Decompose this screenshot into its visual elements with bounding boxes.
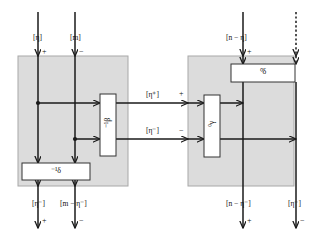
sign-plus-top-left: + xyxy=(42,48,47,56)
wire-label-eta-minus-bottom-right: [η⁻] xyxy=(288,200,301,208)
sign-minus-middle: − xyxy=(179,127,184,135)
junction-m-lower xyxy=(73,137,77,141)
wire-label-eta-top-left: [η] xyxy=(33,34,42,42)
sign-plus-middle: + xyxy=(179,90,184,98)
sign-plus-bottom-right: + xyxy=(247,217,252,225)
wire-label-m-minus-eta-minus-bottom-left: [m − η⁻] xyxy=(60,200,87,208)
wire-label-eta-minus-middle: [η⁻] xyxy=(146,127,159,135)
diagram-svg xyxy=(0,0,317,238)
diagram-canvas: ⁻¹β ⁻¹δ ⁰γ ⁰δ [η] [m] [n − η] [η⁺] [η⁻] … xyxy=(0,0,317,238)
sign-plus-bottom-left: + xyxy=(42,217,47,225)
sign-plus-top-right: + xyxy=(247,48,252,56)
sign-minus-top-left: − xyxy=(79,48,84,56)
junction-eta-upper xyxy=(36,101,40,105)
wire-label-m-top-left: [m] xyxy=(70,34,81,42)
wire-label-n-minus-eta-top-right: [n − η] xyxy=(226,34,247,42)
box-label-gamma-zero: ⁰γ xyxy=(208,116,216,132)
sign-minus-bottom-left: − xyxy=(79,217,84,225)
sign-minus-bottom-right: − xyxy=(300,217,305,225)
wire-label-eta-plus-middle: [η⁺] xyxy=(146,91,159,99)
box-label-delta-zero: ⁰δ xyxy=(231,68,295,76)
wire-label-n-minus-eta-minus-bottom-right: [n − η⁻] xyxy=(226,200,251,208)
box-label-delta-inverse: ⁻¹δ xyxy=(22,167,90,175)
box-label-beta-inverse: ⁻¹β xyxy=(104,115,112,131)
wire-label-eta-minus-bottom-left: [η⁻] xyxy=(32,200,45,208)
